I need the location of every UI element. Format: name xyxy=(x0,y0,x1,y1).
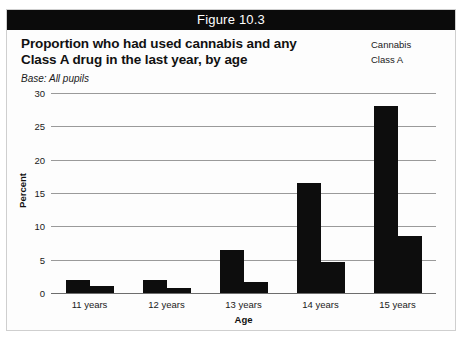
bar-cannabis-14-years xyxy=(297,183,321,293)
y-tick-label-10: 10 xyxy=(15,221,45,232)
x-tick-label-12-years: 12 years xyxy=(148,299,184,310)
bar-cannabis-11-years xyxy=(66,280,90,293)
x-tick-label-14-years: 14 years xyxy=(302,299,338,310)
x-tick-label-13-years: 13 years xyxy=(225,299,261,310)
bar-cannabis-13-years xyxy=(220,250,244,293)
y-tick-label-25: 25 xyxy=(15,121,45,132)
bar-class-a-11-years xyxy=(90,286,114,293)
bar-class-a-14-years xyxy=(321,262,345,293)
y-tick-label-20: 20 xyxy=(15,154,45,165)
y-tick-label-30: 30 xyxy=(15,88,45,99)
bar-cannabis-15-years xyxy=(374,106,398,293)
y-tick-label-15: 15 xyxy=(15,188,45,199)
bar-class-a-15-years xyxy=(398,236,422,293)
bar-cannabis-12-years xyxy=(143,280,167,293)
bar-class-a-13-years xyxy=(244,282,268,293)
figure-container: Figure 10.3 Proportion who had used cann… xyxy=(0,0,462,346)
bar-class-a-12-years xyxy=(167,288,191,293)
x-axis-title: Age xyxy=(235,314,253,325)
y-tick-label-0: 0 xyxy=(15,288,45,299)
bars-layer xyxy=(51,10,436,330)
x-tick-label-15-years: 15 years xyxy=(379,299,415,310)
y-tick-label-5: 5 xyxy=(15,254,45,265)
plot-area: Percent 051015202530 11 years12 years13 … xyxy=(7,10,455,330)
x-tick-label-11-years: 11 years xyxy=(72,299,108,310)
figure-card: Figure 10.3 Proportion who had used cann… xyxy=(6,9,456,331)
